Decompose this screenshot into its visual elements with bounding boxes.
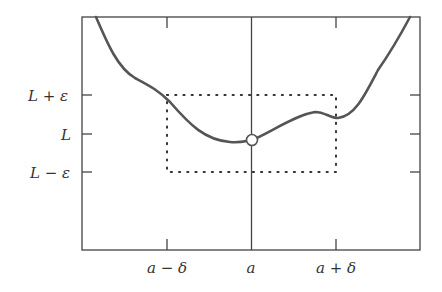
label-L: L [60,126,71,144]
label-L-plus-epsilon: L + ε [27,87,68,105]
label-a: a [247,259,256,277]
epsilon-delta-diagram: L + ε L L − ε a − δ a a + δ [0,0,442,292]
label-a-minus-delta: a − δ [147,259,187,277]
label-a-plus-delta: a + δ [316,259,356,277]
function-curve [96,17,410,142]
hole-point [247,135,258,146]
label-L-minus-epsilon: L − ε [29,164,70,182]
